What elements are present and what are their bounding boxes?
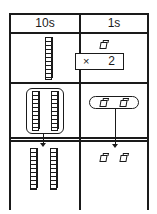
header-tens: 10s bbox=[11, 14, 79, 32]
unit-cube-icon bbox=[119, 155, 127, 162]
ones-arrow-icon bbox=[112, 144, 118, 148]
ones-group-pill bbox=[89, 96, 139, 109]
unit-cube-icon bbox=[119, 100, 127, 107]
unit-cube-icon bbox=[99, 155, 107, 162]
multiplier-value: 2 bbox=[108, 54, 115, 69]
ten-rod-icon bbox=[45, 37, 52, 80]
row2-divider-a bbox=[9, 137, 149, 139]
ten-rod-icon bbox=[30, 148, 37, 190]
unit-cube-icon bbox=[99, 100, 107, 107]
header-ones: 1s bbox=[81, 14, 147, 32]
ten-rod-icon bbox=[32, 91, 39, 131]
ten-rod-icon bbox=[50, 148, 57, 190]
table-left-border bbox=[9, 13, 11, 210]
tens-arrow-icon bbox=[40, 143, 46, 147]
unit-cube-icon bbox=[99, 42, 107, 49]
ten-rod-icon bbox=[51, 91, 58, 131]
column-divider bbox=[79, 13, 81, 210]
multiplier-box: × 2 bbox=[75, 53, 124, 70]
row2-divider-b bbox=[9, 140, 149, 142]
table-right-border bbox=[147, 13, 149, 210]
times-symbol: × bbox=[83, 54, 89, 69]
ones-arrow-shaft bbox=[115, 108, 116, 145]
header-divider bbox=[9, 32, 149, 34]
row1-divider bbox=[9, 82, 149, 84]
